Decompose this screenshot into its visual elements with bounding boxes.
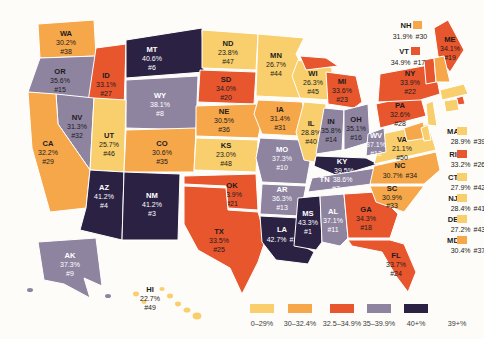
HI-island[interactable]: [175, 302, 181, 307]
state-HI: HI 22.7% #49: [133, 285, 201, 319]
svg-text:34.1%: 34.1%: [440, 45, 460, 52]
DE-swatch: [457, 215, 467, 223]
svg-text:36.3%: 36.3%: [272, 195, 292, 202]
legend-swatch-32-34: [330, 304, 354, 313]
state-ND: ND 23.8% #47: [202, 30, 258, 70]
svg-text:CA: CA: [43, 139, 54, 148]
svg-text:27.2%#43: 27.2%#43: [451, 226, 484, 233]
svg-text:MN: MN: [270, 51, 282, 60]
svg-text:WI: WI: [308, 69, 317, 78]
state-MT-shape[interactable]: [126, 28, 204, 78]
svg-text:#32: #32: [71, 132, 83, 139]
svg-text:42.7%#2: 42.7%#2: [267, 236, 298, 243]
svg-text:FL: FL: [391, 251, 401, 260]
svg-text:21.1%: 21.1%: [392, 145, 412, 152]
svg-text:#50: #50: [396, 154, 408, 161]
svg-text:AR: AR: [277, 185, 288, 194]
svg-text:#35: #35: [156, 158, 168, 165]
HI-island[interactable]: [193, 313, 202, 320]
svg-text:MT: MT: [147, 45, 158, 54]
svg-text:#18: #18: [360, 224, 372, 231]
state-WA: WA 30.2% #38: [38, 20, 96, 58]
svg-text:41.2%: 41.2%: [142, 201, 162, 208]
svg-text:34.0%: 34.0%: [216, 85, 236, 92]
RI-swatch: [457, 150, 467, 158]
svg-text:#12: #12: [370, 150, 382, 157]
state-MT: MT 40.6% #6: [126, 28, 204, 78]
svg-text:33.2%#26: 33.2%#26: [451, 161, 484, 168]
svg-text:30.7%#34: 30.7%#34: [383, 172, 418, 179]
svg-text:37.3%: 37.3%: [60, 261, 80, 268]
svg-text:30.9%: 30.9%: [382, 194, 402, 201]
svg-text:#7: #7: [332, 185, 340, 192]
legend-swatch-35-39: [367, 304, 391, 313]
svg-text:KS: KS: [221, 141, 232, 150]
svg-text:#4: #4: [100, 202, 108, 209]
svg-text:#38: #38: [60, 48, 72, 55]
svg-text:#9: #9: [66, 270, 74, 277]
legend-label-39plus: 39+%: [448, 319, 467, 328]
svg-text:#31: #31: [274, 124, 286, 131]
svg-text:AZ: AZ: [99, 183, 109, 192]
svg-text:OH: OH: [350, 115, 361, 124]
svg-text:#6: #6: [148, 64, 156, 71]
state-CT: [444, 99, 459, 112]
HI-island[interactable]: [184, 307, 191, 312]
state-KS: KS 23.0% #48: [194, 138, 258, 172]
HI-island[interactable]: [167, 294, 173, 299]
svg-text:31.3%: 31.3%: [67, 123, 87, 130]
label-CT: CT 27.9%#42: [448, 173, 484, 191]
svg-text:33.1%: 33.1%: [96, 81, 116, 88]
state-CO: CO 30.6% #35: [124, 128, 196, 172]
state-AK: AK 37.3% #9: [27, 238, 111, 298]
svg-text:33.6%: 33.6%: [332, 87, 352, 94]
legend-swatch-0-29: [250, 304, 274, 313]
label-NJ: NJ 28.4%#41: [448, 194, 484, 212]
svg-text:#8: #8: [156, 110, 164, 117]
label-DE: DE 27.2%#43: [448, 215, 484, 233]
svg-text:MO: MO: [276, 145, 288, 154]
svg-text:OK: OK: [226, 181, 238, 190]
svg-text:32.2%: 32.2%: [38, 149, 58, 156]
svg-text:NH: NH: [401, 21, 412, 30]
svg-text:35.6%: 35.6%: [50, 77, 70, 84]
legend-label-0-29: 0–29%: [251, 319, 274, 328]
state-WA-label: WA: [60, 29, 73, 38]
HI-island[interactable]: [133, 292, 139, 297]
state-NJ-shape[interactable]: [426, 101, 437, 126]
svg-text:UT: UT: [104, 131, 114, 140]
svg-text:27.9%#42: 27.9%#42: [451, 184, 484, 191]
svg-text:33.9%: 33.9%: [400, 79, 420, 86]
svg-text:CO: CO: [156, 139, 167, 148]
svg-text:NJ: NJ: [448, 194, 458, 203]
svg-text:37.1%: 37.1%: [323, 217, 343, 224]
svg-text:WY: WY: [154, 91, 166, 100]
state-AK-shape[interactable]: [38, 238, 102, 298]
svg-text:OR: OR: [54, 67, 66, 76]
state-WY: WY 38.1% #8: [126, 76, 198, 130]
svg-text:#24: #24: [390, 270, 402, 277]
HI-island[interactable]: [159, 287, 164, 291]
state-SD: SD 34.0% #20: [198, 70, 256, 104]
state-AL: AL 37.1% #11: [320, 194, 348, 246]
svg-text:NM: NM: [146, 191, 158, 200]
CT-swatch: [457, 173, 467, 181]
us-map: WA 30.2% #38 OR 35.6% #15 ID 33.1% #27 M…: [0, 0, 484, 339]
svg-text:LA: LA: [277, 225, 288, 234]
svg-text:#27: #27: [100, 90, 112, 97]
state-UT: UT 25.7% #46: [90, 98, 126, 172]
svg-text:IA: IA: [276, 105, 284, 114]
legend-label-40plus: 40+%: [407, 319, 426, 328]
choropleth-map-page: WA 30.2% #38 OR 35.6% #15 ID 33.1% #27 M…: [0, 0, 484, 339]
svg-text:23.8%: 23.8%: [218, 49, 238, 56]
svg-text:GA: GA: [360, 205, 372, 214]
state-CT-shape[interactable]: [444, 99, 459, 112]
svg-text:28.9%#39: 28.9%#39: [451, 138, 484, 145]
svg-text:PA: PA: [395, 101, 406, 110]
svg-text:MS: MS: [302, 209, 313, 218]
legend-label-35-39: 35–39.9%: [363, 319, 396, 328]
state-NM: NM 41.2% #3: [122, 172, 180, 240]
svg-text:CT: CT: [448, 173, 458, 182]
svg-text:#49: #49: [144, 304, 156, 311]
svg-text:VT: VT: [399, 47, 409, 56]
